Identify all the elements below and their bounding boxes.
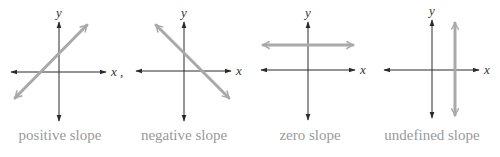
x-axis-label: x (359, 62, 366, 77)
y-axis-label: y (179, 5, 187, 20)
x-axis-label: x , (110, 64, 123, 79)
caption-undefined-slope: undefined slope (384, 127, 479, 144)
x-axis-label: x (235, 63, 242, 78)
positive-slope-line (15, 25, 87, 98)
caption-negative-slope: negative slope (141, 127, 227, 144)
y-axis-label: y (427, 3, 435, 18)
panel-undefined-slope: yx (384, 3, 490, 118)
caption-zero-slope: zero slope (279, 127, 340, 144)
panel-positive-slope: yx , (11, 5, 123, 121)
caption-positive-slope: positive slope (19, 127, 102, 144)
negative-slope-line (156, 25, 229, 98)
x-axis-label: x (483, 62, 490, 77)
y-axis-label: y (54, 5, 62, 20)
panel-zero-slope: yx (261, 5, 366, 120)
y-axis-label: y (303, 5, 311, 20)
panel-negative-slope: yx (136, 5, 242, 121)
